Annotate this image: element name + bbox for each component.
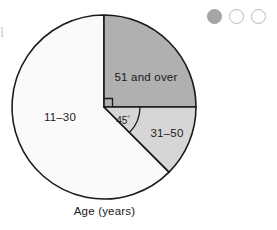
pie-chart-svg: 51 and over 31–50 11–30 45°	[0, 0, 210, 205]
angle-value: 45	[116, 115, 128, 126]
pagination-dot-2[interactable]	[229, 9, 244, 24]
pie-chart-figure: l 51 and over 31–50 11–30 45° Age (years…	[0, 0, 277, 230]
pie-slice-51-and-over[interactable]	[104, 15, 196, 107]
chart-area: 51 and over 31–50 11–30 45° Age (years)	[0, 0, 210, 230]
angle-degree-symbol: °	[127, 115, 130, 122]
slice-label-11-30: 11–30	[44, 111, 76, 123]
pagination-dot-1[interactable]	[207, 9, 222, 24]
slice-label-51-and-over: 51 and over	[115, 71, 178, 83]
slice-label-31-50: 31–50	[151, 127, 184, 139]
pagination-dots[interactable]	[207, 9, 266, 24]
chart-caption: Age (years)	[0, 204, 209, 218]
pagination-dot-3[interactable]	[251, 9, 266, 24]
